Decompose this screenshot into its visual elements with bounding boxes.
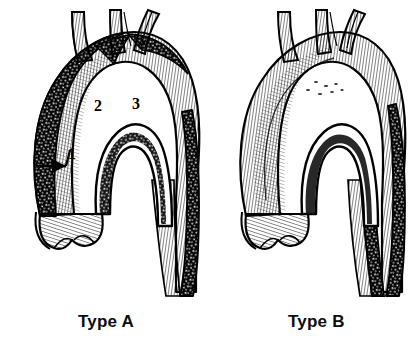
callout-label-3: 3 <box>132 96 140 112</box>
illustration-type-b <box>220 0 415 300</box>
type-a-drawing <box>0 0 220 300</box>
illustration-type-a: 1 2 3 <box>0 0 220 300</box>
type-b-drawing <box>220 0 415 300</box>
figure-canvas: 1 2 3 <box>0 0 415 354</box>
callout-label-2: 2 <box>94 98 102 114</box>
caption-type-b: Type B <box>288 312 345 332</box>
callout-label-1: 1 <box>68 146 76 162</box>
caption-type-a: Type A <box>78 312 134 332</box>
